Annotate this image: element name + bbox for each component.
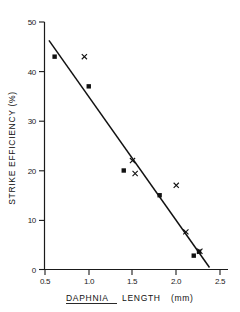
y-tick-label: 10 — [28, 216, 37, 225]
scatter-plot-svg: 50 40 30 20 10 0 0.5 1.0 1.5 2.0 2.5 — [0, 0, 240, 312]
data-point-cross — [174, 183, 179, 188]
x-axis-title-units: (mm) — [171, 293, 194, 303]
y-axis-title: STRIKE EFFICIENCY (%) — [7, 91, 17, 205]
y-tick-label: 0 — [32, 266, 37, 275]
y-axis-ticks — [39, 22, 45, 270]
x-tick-label: 2.0 — [171, 277, 182, 286]
data-point-cross — [133, 171, 138, 176]
chart-figure: 50 40 30 20 10 0 0.5 1.0 1.5 2.0 2.5 — [0, 0, 240, 312]
data-point-square — [157, 193, 161, 197]
data-point-square — [192, 253, 196, 257]
data-point-square — [87, 84, 91, 88]
data-point-square — [122, 168, 126, 172]
x-axis-title-noun: LENGTH — [122, 293, 161, 303]
y-tick-label: 30 — [28, 117, 37, 126]
y-tick-label: 50 — [28, 18, 37, 27]
x-tick-label: 1.0 — [84, 277, 95, 286]
y-tick-label: 20 — [28, 167, 37, 176]
regression-line — [49, 40, 210, 267]
x-axis-tick-labels: 0.5 1.0 1.5 2.0 2.5 — [40, 277, 226, 286]
data-point-cross — [82, 54, 87, 59]
y-axis-tick-labels: 50 40 30 20 10 0 — [28, 18, 37, 275]
data-point-square — [52, 54, 56, 58]
x-axis-ticks — [45, 270, 220, 276]
x-tick-label: 0.5 — [40, 277, 51, 286]
y-tick-label: 40 — [28, 68, 37, 77]
x-tick-label: 1.5 — [127, 277, 138, 286]
x-tick-label: 2.5 — [215, 277, 226, 286]
x-axis-title: DAPHNIA LENGTH (mm) — [66, 293, 194, 304]
x-axis-title-genus: DAPHNIA — [66, 293, 109, 303]
data-point-group — [52, 54, 202, 258]
